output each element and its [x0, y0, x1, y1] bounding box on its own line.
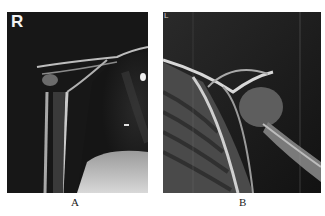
- xray-image-a: [7, 12, 148, 193]
- xray-panel-b: L: [163, 12, 321, 193]
- side-marker-right: R: [11, 12, 23, 32]
- panel-caption-b: B: [239, 196, 246, 208]
- side-marker-left: L: [164, 12, 168, 20]
- xray-panel-a: R: [7, 12, 148, 193]
- panel-caption-a: A: [71, 196, 79, 208]
- xray-image-b: [163, 12, 321, 193]
